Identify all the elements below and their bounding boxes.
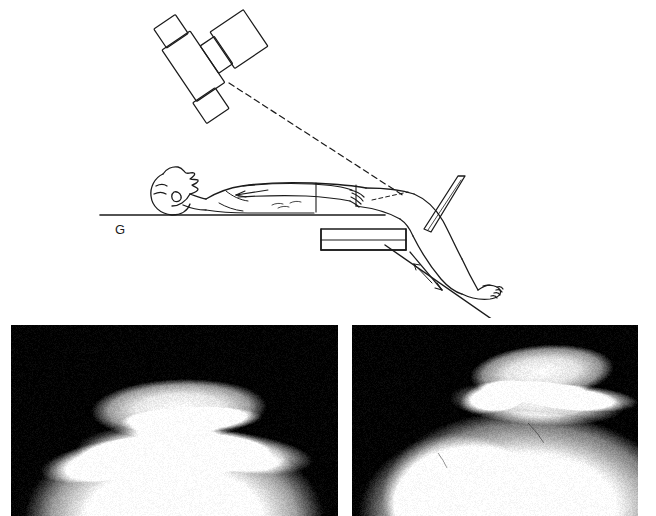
- radiograph-right-image: [352, 325, 638, 516]
- patient-torso-bottom: [206, 210, 314, 213]
- patient-thigh-bottom: [356, 206, 400, 219]
- patient-foot: [462, 285, 503, 299]
- patient-thigh-top: [366, 188, 414, 194]
- patient-head: [151, 167, 206, 215]
- grid-label: G: [115, 222, 125, 237]
- radiograph-strip: [0, 318, 656, 516]
- patient-arm: [236, 184, 364, 207]
- leg-support-line: [385, 245, 493, 318]
- radiograph-right: [352, 325, 638, 516]
- positioning-diagram-svg: [0, 0, 656, 318]
- figure-page: G: [0, 0, 656, 516]
- central-ray-line: [229, 83, 404, 196]
- patient-knee-front: [414, 194, 462, 259]
- radiograph-left-image: [11, 325, 338, 516]
- central-ray-leader: [372, 192, 408, 200]
- radiograph-left: [11, 325, 338, 516]
- positioning-diagram: G: [0, 0, 656, 318]
- patient-lower-leg-front: [462, 259, 478, 290]
- patient-torso-top: [206, 183, 366, 199]
